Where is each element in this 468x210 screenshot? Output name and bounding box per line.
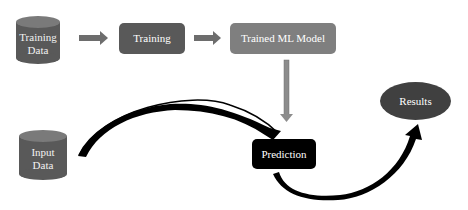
label-line-2: Data bbox=[33, 159, 54, 171]
arrow-input-to-prediction bbox=[78, 100, 281, 157]
training-data-label: TrainingData bbox=[16, 28, 60, 60]
input-data-label: InputData bbox=[19, 142, 67, 176]
results-label: Results bbox=[399, 95, 431, 108]
label-line-1: Training bbox=[19, 31, 57, 43]
label-line-2: Data bbox=[28, 44, 49, 56]
cylinder-top bbox=[16, 16, 60, 28]
arrow-training-to-model bbox=[194, 31, 221, 45]
input-data-node: InputData bbox=[19, 130, 67, 180]
training-label: Training bbox=[133, 32, 171, 45]
training-node: Training bbox=[119, 23, 185, 54]
trained-ml-model-node: Trained ML Model bbox=[230, 23, 336, 54]
training-data-node: TrainingData bbox=[16, 16, 60, 64]
arrow-training-data-to-training bbox=[79, 31, 108, 45]
prediction-label: Prediction bbox=[261, 148, 306, 161]
prediction-node: Prediction bbox=[252, 139, 316, 169]
arrow-model-to-prediction bbox=[280, 60, 293, 122]
results-node: Results bbox=[380, 82, 451, 120]
label-line-1: Input bbox=[31, 146, 54, 158]
trained-ml-model-label: Trained ML Model bbox=[241, 32, 325, 45]
cylinder-top bbox=[19, 130, 67, 142]
